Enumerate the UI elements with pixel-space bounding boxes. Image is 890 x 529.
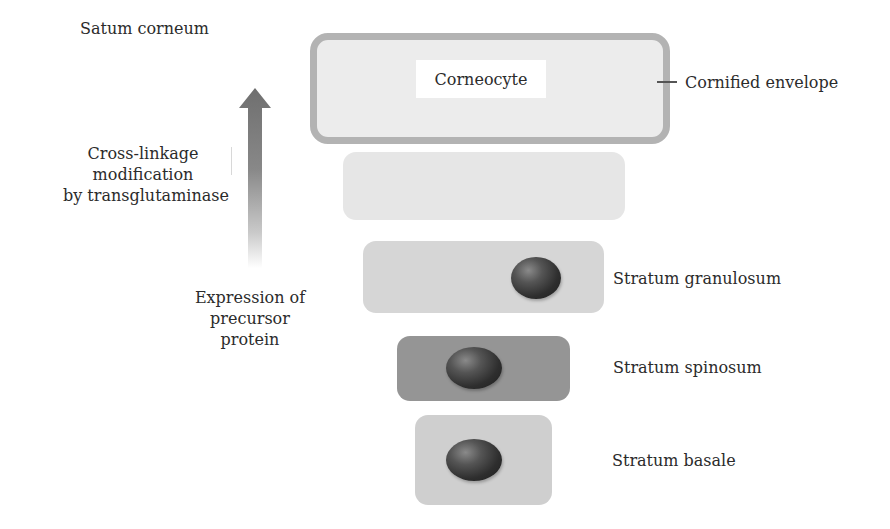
stratum-corneum-label: Satum corneum: [80, 18, 209, 39]
corneocyte-cell: Corneocyte: [310, 33, 670, 144]
stratum-basale-label: Stratum basale: [612, 450, 736, 471]
up-arrow-icon: [232, 86, 278, 271]
expression-line-2: precursor: [175, 308, 325, 329]
cross-linkage-line-3: by transglutaminase: [63, 185, 223, 206]
cross-linkage-line-1: Cross-linkage: [63, 143, 223, 164]
expression-label: Expression of precursor protein: [175, 287, 325, 350]
granulosum-cell: [363, 241, 604, 313]
spinosum-cell: [397, 336, 570, 401]
stratum-granulosum-label: Stratum granulosum: [613, 268, 781, 289]
expression-line-3: protein: [175, 329, 325, 350]
expression-line-1: Expression of: [175, 287, 325, 308]
nucleus-icon: [446, 347, 502, 389]
cross-linkage-label: Cross-linkage modification by transgluta…: [63, 143, 223, 206]
callout-leader-line: [657, 81, 677, 83]
stratum-spinosum-label: Stratum spinosum: [613, 357, 762, 378]
cornified-envelope-label: Cornified envelope: [685, 72, 838, 93]
nucleus-icon: [511, 257, 561, 299]
corneocyte-label: Corneocyte: [416, 60, 546, 98]
nucleus-icon: [446, 439, 502, 481]
cross-linkage-line-2: modification: [63, 164, 223, 185]
transitional-cell: [343, 152, 625, 220]
basale-cell: [415, 415, 552, 505]
